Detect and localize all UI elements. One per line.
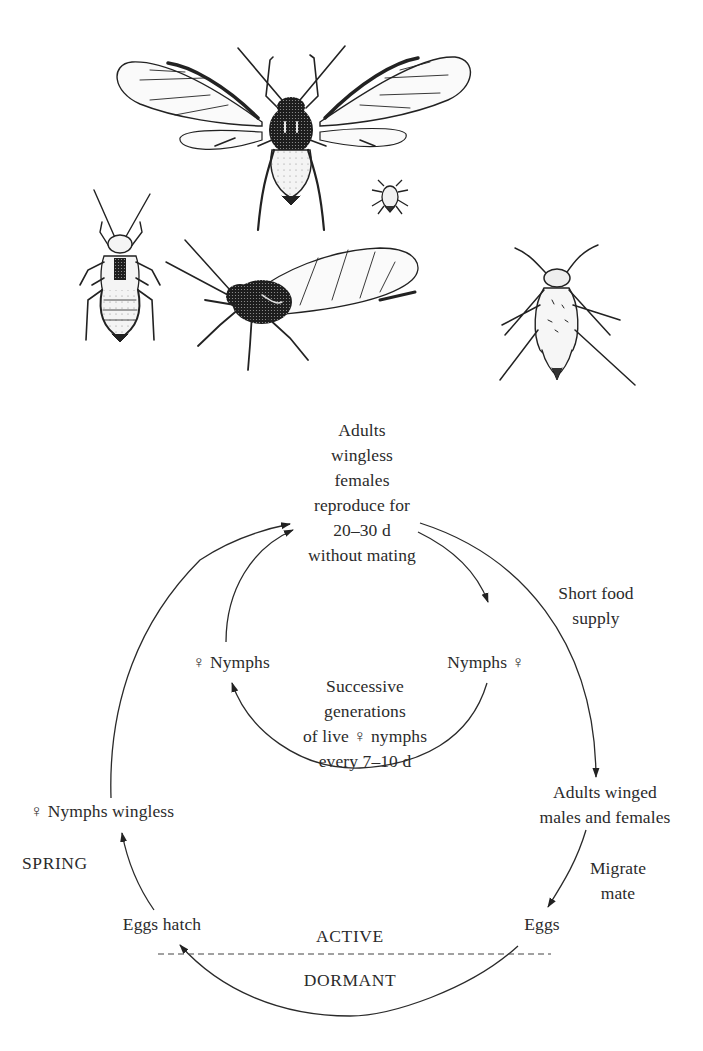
- label-successive-generations: Successive generations of live ♀ nymphs …: [290, 674, 440, 774]
- arrow-eggs-hatch-to-nymphs-wingless: [122, 833, 154, 910]
- aphid-life-cycle-figure: Adults wingless females reproduce for 20…: [0, 0, 703, 1051]
- label-short-food-supply: Short food supply: [536, 581, 656, 631]
- node-nymphs-right: Nymphs ♀: [436, 650, 536, 675]
- label-spring: SPRING: [22, 851, 102, 876]
- label-active: ACTIVE: [300, 924, 400, 949]
- label-migrate-mate: Migrate mate: [578, 856, 658, 906]
- node-eggs: Eggs: [512, 912, 572, 937]
- node-adults-winged: Adults winged males and females: [520, 780, 690, 830]
- node-nymphs-wingless: ♀ Nymphs wingless: [30, 799, 210, 824]
- label-dormant: DORMANT: [290, 968, 410, 993]
- node-nymphs-left: ♀ Nymphs: [186, 650, 276, 675]
- node-adults-wingless-females: Adults wingless females reproduce for 20…: [282, 418, 442, 568]
- node-eggs-hatch: Eggs hatch: [112, 912, 212, 937]
